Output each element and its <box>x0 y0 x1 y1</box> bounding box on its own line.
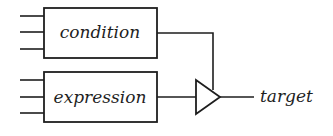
expression-inputs <box>20 80 44 113</box>
condition-inputs <box>20 16 44 49</box>
target-label: target <box>260 86 313 106</box>
condition-label: condition <box>60 22 140 42</box>
expression-label: expression <box>54 87 147 107</box>
condition-block: condition <box>44 8 157 58</box>
expression-block: expression <box>44 72 157 122</box>
condition-output-wire <box>157 33 213 90</box>
buffer-gate-icon <box>196 80 220 114</box>
conditional-assignment-diagram: condition expression target <box>0 0 333 136</box>
